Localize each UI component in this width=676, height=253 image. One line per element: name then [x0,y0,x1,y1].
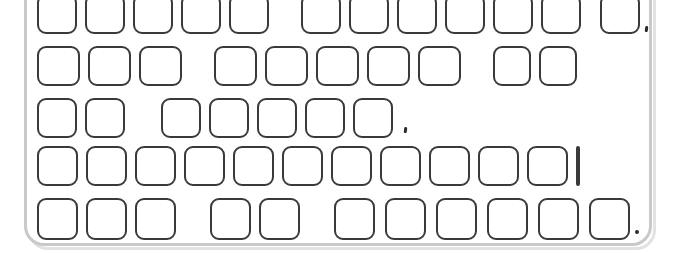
key-r5-c5[interactable] [259,198,300,240]
key-r3-c5[interactable] [257,98,297,138]
key-r3-c1[interactable] [37,98,77,138]
key-r4-c8[interactable] [380,146,421,186]
key-r2-c10[interactable] [539,46,577,86]
key-r5-c10[interactable] [538,198,579,240]
key-r4-c7[interactable] [331,146,372,186]
key-r1-c1[interactable] [37,0,77,34]
key-r4-c11[interactable] [527,146,568,186]
key-r4-c5[interactable] [233,146,274,186]
dot-mark-5-1 [635,230,639,234]
key-r1-c6[interactable] [301,0,341,34]
key-r4-c2[interactable] [86,146,127,186]
key-r5-c9[interactable] [487,198,528,240]
key-r2-c9[interactable] [493,46,531,86]
key-r2-c1[interactable] [37,46,80,86]
keyboard-scene [0,0,676,253]
key-r2-c5[interactable] [265,46,308,86]
key-r1-c5[interactable] [229,0,269,34]
key-r1-c3[interactable] [133,0,173,34]
key-r2-c3[interactable] [139,46,182,86]
key-r5-c8[interactable] [436,198,477,240]
key-r1-c10[interactable] [493,0,533,34]
key-r2-c8[interactable] [418,46,461,86]
comma-mark-3-1 [404,127,408,133]
key-r2-c2[interactable] [88,46,131,86]
keyboard-keys-layer [0,0,676,253]
comma-mark-1-1 [645,26,649,32]
key-r2-c4[interactable] [214,46,257,86]
key-r3-c2[interactable] [85,98,125,138]
key-r5-c6[interactable] [334,198,375,240]
key-r3-c7[interactable] [353,98,393,138]
key-r3-c4[interactable] [209,98,249,138]
key-r3-c6[interactable] [305,98,345,138]
key-r1-c7[interactable] [349,0,389,34]
key-r4-c6[interactable] [282,146,323,186]
key-r5-c3[interactable] [135,198,176,240]
key-r2-c7[interactable] [367,46,410,86]
key-r4-c1[interactable] [37,146,78,186]
key-r1-c9[interactable] [445,0,485,34]
key-r1-c8[interactable] [397,0,437,34]
key-r3-c3[interactable] [161,98,201,138]
key-r5-c2[interactable] [86,198,127,240]
key-r5-c4[interactable] [210,198,251,240]
key-r5-c7[interactable] [385,198,426,240]
key-r1-c2[interactable] [85,0,125,34]
key-r1-c4[interactable] [181,0,221,34]
key-r4-c3[interactable] [135,146,176,186]
key-r2-c6[interactable] [316,46,359,86]
key-r5-c1[interactable] [37,198,78,240]
key-r4-c4[interactable] [184,146,225,186]
key-r5-c11[interactable] [589,198,630,240]
key-r1-c11[interactable] [541,0,581,34]
key-r4-c9[interactable] [429,146,470,186]
key-r4-c10[interactable] [478,146,519,186]
key-r1-c12[interactable] [600,0,640,34]
key-r4-c12[interactable] [576,146,580,186]
